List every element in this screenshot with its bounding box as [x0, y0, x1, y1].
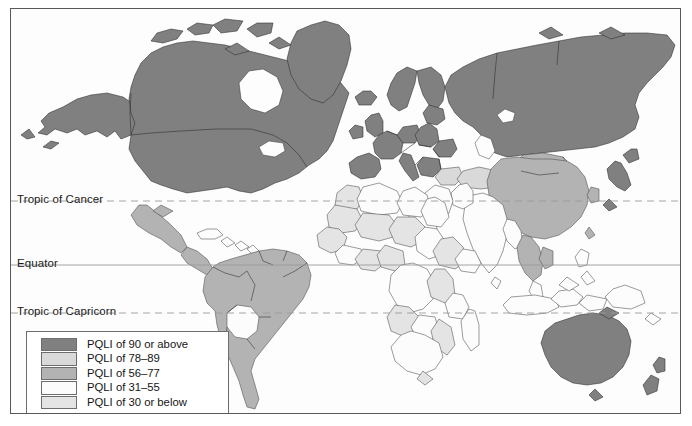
legend-swatch-pqli-90-or-above — [41, 338, 77, 351]
legend-label-pqli-78-89: PQLI of 78–89 — [87, 353, 160, 364]
legend-swatch-pqli-56-77 — [41, 367, 77, 380]
legend-label-pqli-56-77: PQLI of 56–77 — [87, 368, 160, 379]
legend-rows: PQLI of 90 or above PQLI of 78–89 PQLI o… — [27, 332, 228, 410]
legend-label-pqli-90-or-above: PQLI of 90 or above — [87, 339, 188, 350]
legend-swatch-pqli-30-or-below — [41, 396, 77, 409]
equator-label: Equator — [17, 258, 58, 270]
legend-item-pqli-78-89: PQLI of 78–89 — [41, 352, 228, 367]
map-legend: PQLI of 90 or above PQLI of 78–89 PQLI o… — [26, 331, 229, 414]
tropic-of-capricorn-label: Tropic of Capricorn — [17, 306, 116, 318]
legend-item-pqli-90-or-above: PQLI of 90 or above — [41, 337, 228, 352]
legend-swatch-pqli-31-55 — [41, 381, 77, 394]
legend-item-pqli-30-or-below: PQLI of 30 or below — [41, 395, 228, 410]
tropic-of-cancer-label: Tropic of Cancer — [17, 194, 103, 206]
legend-item-pqli-31-55: PQLI of 31–55 — [41, 381, 228, 396]
legend-item-pqli-56-77: PQLI of 56–77 — [41, 366, 228, 381]
legend-swatch-pqli-78-89 — [41, 352, 77, 365]
legend-label-pqli-30-or-below: PQLI of 30 or below — [87, 397, 187, 408]
map-frame: .cA{fill:#808080;stroke:#2b2b2b;stroke-w… — [10, 8, 681, 414]
legend-label-pqli-31-55: PQLI of 31–55 — [87, 382, 160, 393]
thematic-world-map-figure: .cA{fill:#808080;stroke:#2b2b2b;stroke-w… — [0, 0, 692, 426]
